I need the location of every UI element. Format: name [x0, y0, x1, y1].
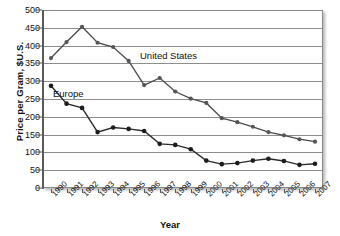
data-point — [80, 25, 84, 29]
data-point — [49, 56, 53, 60]
data-point — [266, 130, 270, 134]
data-point — [158, 76, 162, 80]
data-point — [127, 59, 131, 63]
data-point — [95, 41, 99, 45]
data-point — [297, 137, 301, 141]
series-label-europe: Europe — [53, 88, 84, 99]
data-point — [111, 45, 115, 49]
x-tick-mark — [191, 189, 192, 193]
y-tick-mark — [36, 10, 42, 11]
x-tick-mark — [315, 189, 316, 193]
x-tick-mark — [284, 189, 285, 193]
x-tick-mark — [253, 189, 254, 193]
x-tick-mark — [144, 189, 145, 193]
series-label-united-states: United States — [140, 50, 197, 61]
series-line-united-states — [51, 27, 315, 142]
data-point — [95, 130, 100, 135]
data-point — [282, 159, 287, 164]
data-point — [204, 101, 208, 105]
y-tick-mark — [36, 152, 42, 153]
x-tick-mark — [113, 189, 114, 193]
data-point — [111, 125, 116, 130]
series-line-europe — [51, 86, 315, 165]
data-point — [188, 147, 193, 152]
y-tick-mark — [36, 170, 42, 171]
x-tick-mark — [237, 189, 238, 193]
data-point — [220, 116, 224, 120]
x-tick-mark — [175, 189, 176, 193]
y-tick-mark — [36, 81, 42, 82]
data-point — [64, 101, 69, 106]
y-tick-mark — [36, 27, 42, 28]
data-point — [313, 161, 318, 166]
x-tick-mark — [51, 189, 52, 193]
data-point — [142, 83, 146, 87]
x-tick-mark — [67, 189, 68, 193]
price-per-gram-line-chart: Price per Gram, $U.S. 050100150200250300… — [0, 0, 340, 236]
data-point — [235, 120, 239, 124]
data-point — [126, 127, 131, 132]
x-tick-mark — [160, 189, 161, 193]
data-point — [173, 89, 177, 93]
x-axis-title: Year — [0, 219, 340, 230]
y-tick-mark — [36, 134, 42, 135]
y-tick-mark — [36, 116, 42, 117]
data-point — [142, 129, 147, 134]
data-point — [251, 158, 256, 163]
y-tick-mark — [36, 45, 42, 46]
x-tick-mark — [82, 189, 83, 193]
y-axis-tick-labels: 050100150200250300350400450500 — [14, 0, 40, 236]
data-point — [64, 40, 68, 44]
data-point — [204, 158, 209, 163]
x-tick-mark — [98, 189, 99, 193]
y-tick-mark — [36, 188, 42, 189]
data-point — [266, 157, 271, 162]
data-point — [282, 133, 286, 137]
data-series-layer — [43, 10, 323, 188]
data-point — [220, 162, 225, 167]
x-axis-tick-labels: 1990199119921993199419951996199719981999… — [43, 192, 323, 222]
y-tick-mark — [36, 63, 42, 64]
x-tick-mark — [206, 189, 207, 193]
data-point — [235, 161, 240, 166]
data-point — [173, 143, 178, 148]
data-point — [313, 140, 317, 144]
x-tick-mark — [129, 189, 130, 193]
x-tick-mark — [222, 189, 223, 193]
data-point — [189, 97, 193, 101]
data-point — [157, 142, 162, 147]
x-tick-mark — [299, 189, 300, 193]
y-tick-mark — [36, 99, 42, 100]
data-point — [251, 125, 255, 129]
data-point — [80, 106, 85, 111]
data-point — [297, 163, 302, 168]
x-tick-mark — [268, 189, 269, 193]
